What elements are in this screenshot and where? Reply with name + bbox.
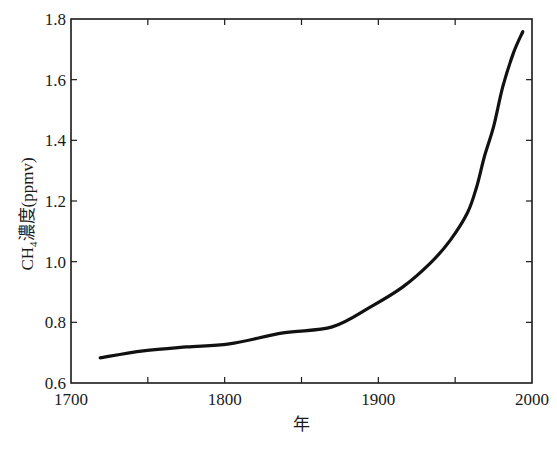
x-axis-label: 年 [293,415,310,434]
methane-concentration-chart: 0.60.81.01.21.41.61.8 1700180019002000 年… [0,0,557,452]
y-tick-label: 1.6 [45,71,66,90]
y-tick-labels: 0.60.81.01.21.41.61.8 [45,10,67,393]
axis-ticks [71,19,532,383]
y-tick-label: 0.8 [45,313,66,332]
ch4-concentration-line [100,32,523,358]
y-tick-label: 1.2 [45,192,66,211]
y-tick-label: 1.0 [45,253,66,272]
y-axis-label: CH4濃度(ppmv) [18,157,39,270]
x-tick-label: 1700 [54,390,88,409]
x-tick-label: 2000 [515,390,549,409]
y-tick-label: 1.8 [45,10,66,29]
plot-frame [71,19,532,383]
x-tick-labels: 1700180019002000 [54,390,549,409]
x-tick-label: 1900 [361,390,395,409]
y-tick-label: 1.4 [45,131,67,150]
x-tick-label: 1800 [208,390,242,409]
